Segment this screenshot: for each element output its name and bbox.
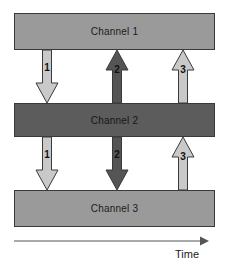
time-axis-arrow-icon xyxy=(14,234,211,247)
channel-time-diagram: Channel 1 Channel 2 Channel 3 1 2 3 1 2 … xyxy=(0,0,229,269)
channel-label: Channel 1 xyxy=(91,26,138,37)
channel-label: Channel 2 xyxy=(91,115,138,126)
transfer-arrow-2-up: 2 xyxy=(104,50,130,103)
transfer-arrow-3-up-lower: 3 xyxy=(170,137,196,190)
channel-bar-channel-2: Channel 2 xyxy=(14,103,215,137)
transfer-arrow-1-down-lower: 1 xyxy=(34,137,60,190)
channel-label: Channel 3 xyxy=(91,203,138,214)
time-axis-label: Time xyxy=(175,248,199,260)
channel-bar-channel-1: Channel 1 xyxy=(14,13,215,50)
transfer-arrow-2-down-lower: 2 xyxy=(104,137,130,190)
transfer-arrow-3-up: 3 xyxy=(170,50,196,103)
transfer-arrow-1-down: 1 xyxy=(34,50,60,103)
channel-bar-channel-3: Channel 3 xyxy=(14,190,215,227)
